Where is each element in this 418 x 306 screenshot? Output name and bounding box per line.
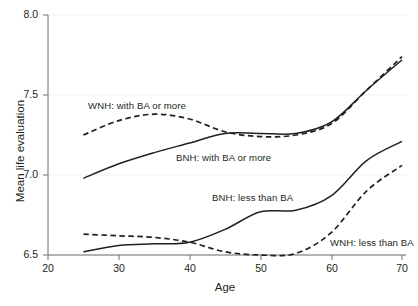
y-tick-label-3: 6.5 — [10, 248, 38, 260]
y-tick-label-0: 8.0 — [10, 8, 38, 20]
y-tick-label-2: 7.0 — [10, 168, 38, 180]
x-tick-label-4: 60 — [312, 262, 352, 274]
tick-marks — [43, 15, 402, 260]
axis-lines — [48, 15, 406, 255]
series-label-1: BNH: with BA or more — [176, 152, 271, 163]
series-label-2: BNH: less than BA — [212, 192, 293, 203]
series-label-0: WNH: with BA or more — [88, 100, 186, 111]
x-tick-label-1: 30 — [99, 262, 139, 274]
series-line-0 — [83, 57, 402, 137]
x-axis-title: Age — [0, 281, 418, 293]
x-tick-label-0: 20 — [28, 262, 68, 274]
y-tick-label-1: 7.5 — [10, 88, 38, 100]
y-axis-title: Mean life evaluation — [14, 86, 26, 216]
chart-figure: Mean life evaluation Age 8.07.57.06.5 20… — [0, 0, 418, 306]
series-label-3: WNH: less than BA — [330, 237, 414, 248]
x-tick-label-2: 40 — [170, 262, 210, 274]
x-tick-label-3: 50 — [241, 262, 281, 274]
gridlines — [48, 15, 406, 255]
x-tick-label-5: 70 — [382, 262, 418, 274]
